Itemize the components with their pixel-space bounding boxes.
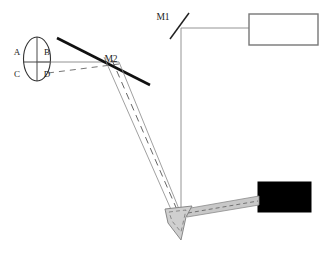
source-box (258, 182, 311, 212)
label-mirror-m2: M2 (104, 54, 117, 64)
optical-diagram: A B C D M2 M1 (0, 0, 325, 254)
mirror-m1 (170, 13, 189, 39)
optics-canvas: A B C D M2 M1 (0, 0, 325, 254)
label-sample-a: A (14, 47, 21, 57)
prism-arm (185, 196, 259, 217)
label-mirror-m1: M1 (156, 12, 169, 22)
label-sample-d: D (44, 69, 51, 79)
label-sample-b: B (44, 47, 50, 57)
detector-box (249, 14, 318, 45)
label-sample-c: C (14, 69, 20, 79)
